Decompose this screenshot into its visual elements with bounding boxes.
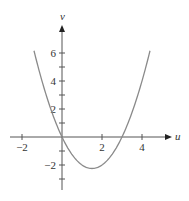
y-axis-label: v (60, 10, 65, 22)
chart: −2 2 4 6 4 2 −2 u v (0, 0, 189, 201)
x-tick-label: 4 (139, 141, 145, 153)
y-tick-label: 6 (51, 47, 57, 59)
y-tick-label: −2 (44, 159, 56, 171)
x-axis-arrow-icon (165, 134, 172, 140)
parabola-curve (34, 51, 150, 169)
x-axis-label: u (175, 130, 181, 142)
y-axis-arrow-icon (59, 25, 65, 32)
x-tick-label: −2 (16, 141, 28, 153)
x-tick-label: 2 (99, 141, 105, 153)
y-tick-label: 4 (51, 75, 57, 87)
